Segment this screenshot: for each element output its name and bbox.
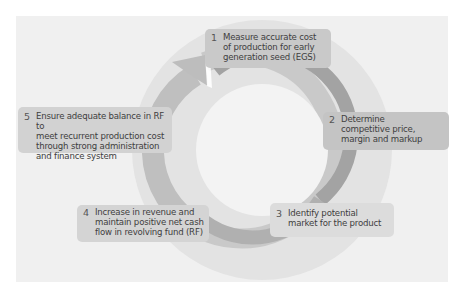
step-5-text: Ensure adequate balance in RF to meet re… (36, 111, 168, 153)
inner-circle (196, 84, 328, 216)
step-3-box: 3 Identify potential market for the prod… (270, 203, 394, 237)
step-1-number: 1 (211, 32, 223, 68)
step-5-number: 5 (24, 111, 36, 153)
step-4-text: Increase in revenue and maintain positiv… (95, 207, 205, 242)
step-4-box: 4 Increase in revenue and maintain posit… (77, 205, 209, 242)
step-3-number: 3 (276, 208, 288, 237)
step-1-text: Measure accurate cost of production for … (223, 32, 327, 68)
step-2-number: 2 (329, 114, 341, 150)
step-5-box: 5 Ensure adequate balance in RF to meet … (18, 107, 172, 153)
step-3-text: Identify potential market for the produc… (288, 208, 390, 237)
step-4-number: 4 (83, 207, 95, 242)
step-1-box: 1 Measure accurate cost of production fo… (205, 29, 331, 68)
step-2-text: Determine competitive price, margin and … (341, 114, 445, 150)
step-2-box: 2 Determine competitive price, margin an… (323, 112, 449, 150)
